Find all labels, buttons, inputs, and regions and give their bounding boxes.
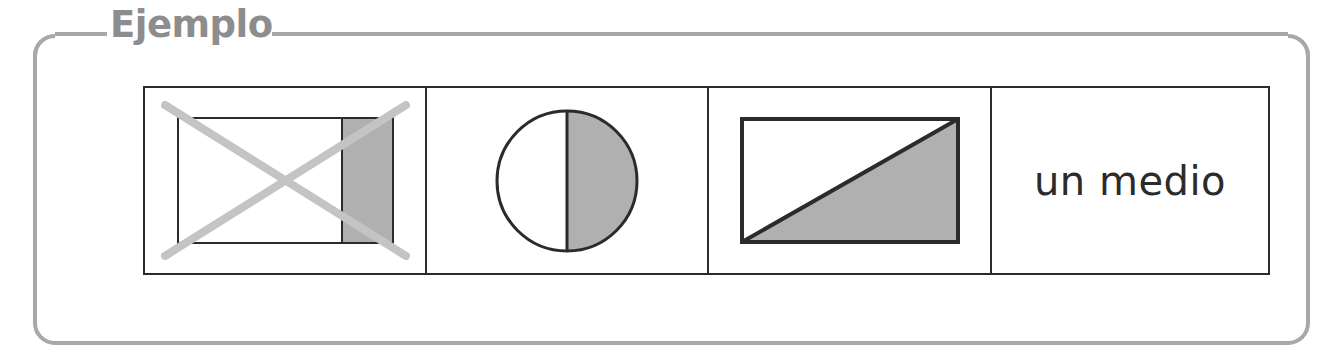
table-cell-rectangle-half (709, 88, 992, 273)
panel-corner-top-right (1288, 34, 1310, 56)
table-cell-circle-half (427, 88, 709, 273)
panel-legend-title: Ejemplo (110, 6, 273, 43)
fraction-name-text: un medio (1034, 158, 1226, 204)
example-table: un medio (143, 86, 1270, 275)
panel-top-rule-left (55, 32, 107, 36)
figure-rectangle-diagonal-half-shaded (739, 116, 961, 245)
rectangle-shaded-part (341, 117, 393, 244)
table-cell-fraction-name: un medio (992, 88, 1268, 273)
circle-shaded-half (567, 111, 637, 251)
figure-circle-half-shaded (493, 107, 641, 255)
figure-rectangle-quarter-shaded (177, 117, 394, 244)
table-cell-rectangle-quarter (145, 88, 427, 273)
panel-top-rule-right (272, 32, 1288, 36)
panel-corner-top-left (33, 34, 55, 56)
